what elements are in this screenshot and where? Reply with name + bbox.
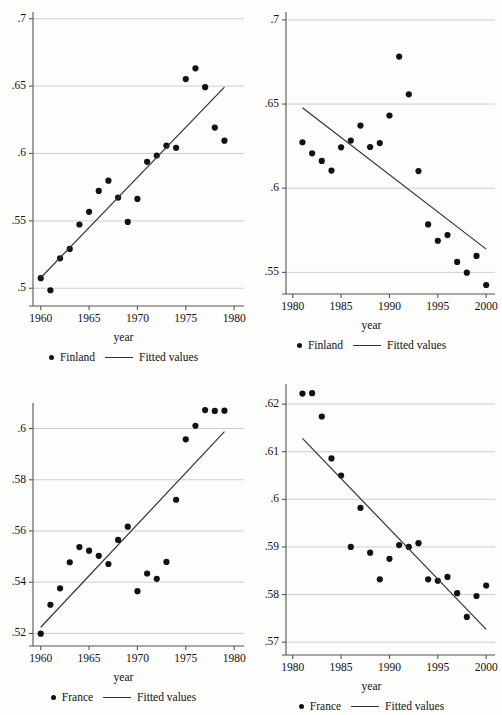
x-axis-title: year <box>0 331 247 343</box>
data-point <box>192 65 198 71</box>
y-tick-label: .58 <box>12 474 26 486</box>
legend-series-label: France <box>62 691 93 703</box>
data-point <box>338 144 344 150</box>
data-point <box>328 455 334 461</box>
x-tick-label: 1965 <box>69 313 109 325</box>
data-point <box>134 196 140 202</box>
legend-marker-icon <box>299 704 304 709</box>
y-tick-label: .52 <box>12 627 26 639</box>
x-tick-label: 1990 <box>369 662 409 674</box>
y-tick-label: .55 <box>12 215 26 227</box>
y-tick-label: .7 <box>270 14 279 26</box>
chart-panel: .57.58.59.6.61.6219801985199019952000yea… <box>248 357 495 714</box>
y-tick-label: .55 <box>265 266 279 278</box>
data-point <box>96 553 102 559</box>
data-point <box>483 582 489 588</box>
x-axis-title: year <box>0 671 247 683</box>
data-point <box>415 540 421 546</box>
legend-line-icon <box>351 706 379 707</box>
data-point <box>464 270 470 276</box>
chart-panel: .55.6.65.719801985199019952000yearFinlan… <box>248 0 495 357</box>
chart-panel: .52.54.56.58.619601965197019751980yearFr… <box>0 357 247 714</box>
x-tick-label: 1995 <box>418 662 458 674</box>
data-point <box>328 167 334 173</box>
data-point <box>96 188 102 194</box>
data-point <box>348 544 354 550</box>
chart-panel: .5.55.6.65.719601965197019751980yearFinl… <box>0 0 247 357</box>
fitted-values-line <box>41 432 225 628</box>
data-point <box>67 559 73 565</box>
legend-line-icon <box>103 697 131 698</box>
x-tick-label: 1965 <box>69 653 109 665</box>
x-tick-label: 1990 <box>369 301 409 313</box>
data-point <box>396 53 402 59</box>
data-point <box>183 76 189 82</box>
data-point <box>444 574 450 580</box>
data-point <box>183 436 189 442</box>
chart-legend: FranceFitted values <box>248 700 495 712</box>
data-point <box>202 84 208 90</box>
data-point <box>299 391 305 397</box>
data-point <box>386 112 392 118</box>
legend-fit-label: Fitted values <box>385 700 444 712</box>
data-point <box>425 576 431 582</box>
data-point <box>192 423 198 429</box>
data-point <box>173 497 179 503</box>
legend-item-series: Finland <box>297 339 343 351</box>
legend-fit-label: Fitted values <box>137 691 196 703</box>
data-point <box>57 585 63 591</box>
data-point <box>386 556 392 562</box>
data-point <box>319 158 325 164</box>
legend-item-series: France <box>51 691 93 703</box>
data-point <box>299 139 305 145</box>
data-point <box>483 282 489 288</box>
x-tick-label: 1995 <box>418 301 458 313</box>
legend-item-series: France <box>299 700 341 712</box>
legend-series-label: Finland <box>308 339 343 351</box>
data-point <box>473 253 479 259</box>
x-tick-label: 1980 <box>273 662 313 674</box>
chart-legend: FinlandFitted values <box>248 339 495 351</box>
data-point <box>415 168 421 174</box>
data-point <box>454 590 460 596</box>
y-tick-label: .7 <box>17 13 26 25</box>
y-tick-label: .6 <box>17 147 26 159</box>
fitted-values-line <box>302 108 486 249</box>
data-point <box>202 407 208 413</box>
data-point <box>464 614 470 620</box>
data-point <box>173 145 179 151</box>
data-point <box>76 221 82 227</box>
x-tick-label: 1980 <box>273 301 313 313</box>
data-point <box>212 408 218 414</box>
data-point <box>367 550 373 556</box>
x-axis-title: year <box>248 319 495 331</box>
data-point <box>163 559 169 565</box>
chart-legend: FranceFitted values <box>0 691 247 703</box>
y-tick-label: .6 <box>270 182 279 194</box>
data-point <box>125 219 131 225</box>
data-point <box>212 125 218 131</box>
legend-item-fit: Fitted values <box>103 691 196 703</box>
y-tick-label: .56 <box>12 525 26 537</box>
data-point <box>38 631 44 637</box>
x-tick-label: 1960 <box>21 313 61 325</box>
x-tick-label: 1970 <box>117 653 157 665</box>
data-point <box>309 150 315 156</box>
x-tick-label: 1960 <box>21 653 61 665</box>
data-point <box>105 178 111 184</box>
data-point <box>221 138 227 144</box>
legend-fit-label: Fitted values <box>387 339 446 351</box>
legend-item-fit: Fitted values <box>351 700 444 712</box>
legend-marker-icon <box>51 695 56 700</box>
y-tick-label: .54 <box>12 576 26 588</box>
fitted-values-line <box>41 87 225 278</box>
y-tick-label: .6 <box>270 493 279 505</box>
data-point <box>144 159 150 165</box>
y-tick-label: .5 <box>17 282 26 294</box>
data-point <box>76 544 82 550</box>
data-point <box>47 287 53 293</box>
data-point <box>144 570 150 576</box>
y-tick-label: .57 <box>265 636 279 648</box>
x-axis-title: year <box>248 680 495 692</box>
x-tick-label: 1975 <box>166 313 206 325</box>
